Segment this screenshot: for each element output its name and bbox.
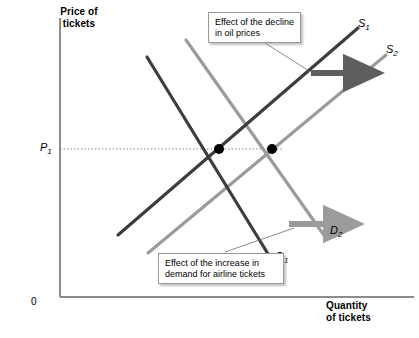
supply-demand-figure: Price of tickets Quantity of tickets 0 P…	[0, 0, 419, 338]
callout-demand-shift: Effect of the increase in demand for air…	[158, 253, 284, 284]
y-axis-title-line1: Price of	[60, 6, 97, 17]
curve-label-d2-subscript: 2	[338, 230, 342, 239]
x-axis-title-line2: of tickets	[326, 312, 416, 324]
x-axis-title: Quantity of tickets	[326, 300, 416, 324]
curve-label-s2-subscript: 2	[393, 49, 397, 58]
curve-label-s1-subscript: 1	[365, 23, 369, 32]
price-label-subscript: 1	[47, 147, 51, 156]
equilibrium-dot-original	[214, 144, 224, 154]
curve-label-d2: D2	[330, 224, 342, 236]
callout-demand-line2: demand for airline tickets	[165, 269, 278, 280]
x-axis-title-line1: Quantity	[326, 300, 367, 311]
demand-curve-d1	[147, 57, 273, 262]
curve-label-s2: S2	[386, 43, 398, 55]
supply-callout-leader	[265, 43, 317, 76]
demand-callout-leader	[225, 228, 294, 252]
y-axis-title: Price of tickets	[44, 6, 114, 30]
demand-curve-d2	[186, 40, 326, 238]
curve-label-s1: S1	[358, 17, 370, 29]
callout-supply-line2: in oil prices	[215, 28, 295, 39]
y-axis-title-line2: tickets	[44, 18, 114, 30]
origin-label: 0	[31, 296, 37, 307]
curve-label-d2-letter: D	[330, 224, 338, 236]
callout-supply-shift: Effect of the decline in oil prices	[208, 12, 301, 43]
curve-label-d1-subscript: 1	[284, 256, 288, 265]
price-axis-label: P1	[40, 141, 52, 153]
plot-canvas	[0, 0, 419, 338]
callout-supply-line1: Effect of the decline	[215, 17, 294, 27]
equilibrium-dot-new	[267, 144, 277, 154]
callout-demand-line1: Effect of the increase in	[165, 258, 259, 268]
supply-curve-s2	[148, 55, 386, 253]
